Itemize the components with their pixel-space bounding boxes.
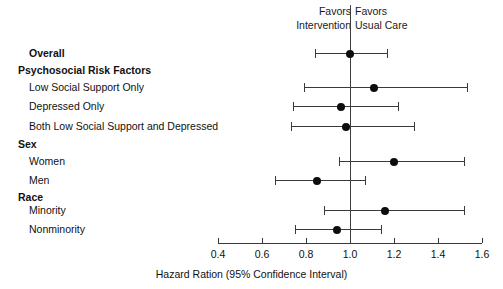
estimate-point-marker: [313, 177, 321, 185]
confidence-interval-line: [324, 210, 465, 211]
x-axis-tick: [262, 238, 263, 243]
ci-cap-upper: [464, 157, 465, 166]
ci-cap-upper: [387, 49, 388, 58]
forest-plot: Favors Intervention Favors Usual Care Ov…: [0, 0, 503, 289]
favors-usual-care-line2: Usual Care: [355, 18, 465, 32]
x-axis-tick-label: 1.0: [330, 248, 370, 260]
ci-cap-upper: [381, 225, 382, 234]
row-label-column: OverallPsychosocial Risk FactorsLow Soci…: [0, 0, 205, 289]
confidence-interval-line: [304, 87, 467, 88]
confidence-interval-line: [275, 180, 365, 181]
ci-cap-lower: [304, 83, 305, 92]
ci-cap-upper: [464, 206, 465, 215]
ci-cap-lower: [324, 206, 325, 215]
favors-usual-care-line1: Favors: [355, 4, 465, 18]
ci-cap-lower: [291, 122, 292, 131]
estimate-point-marker: [342, 123, 350, 131]
confidence-interval-line: [295, 229, 381, 230]
row-label: Men: [29, 174, 49, 186]
ci-cap-upper: [414, 122, 415, 131]
confidence-interval-line: [315, 53, 388, 54]
estimate-point-marker: [346, 50, 354, 58]
ci-cap-lower: [295, 225, 296, 234]
x-axis-tick: [306, 238, 307, 243]
x-axis-tick-label: 0.8: [286, 248, 326, 260]
estimate-point-marker: [381, 207, 389, 215]
x-axis-tick: [482, 238, 483, 243]
confidence-interval-line: [339, 161, 464, 162]
x-axis-tick-label: 0.6: [242, 248, 282, 260]
group-heading: Psychosocial Risk Factors: [18, 64, 151, 76]
ci-cap-upper: [365, 176, 366, 185]
row-label: Depressed Only: [29, 100, 104, 112]
x-axis-tick: [350, 238, 351, 243]
estimate-point-marker: [337, 103, 345, 111]
reference-line: [350, 8, 351, 244]
row-label: Minority: [29, 204, 66, 216]
favors-divider: [350, 5, 351, 35]
confidence-interval-line: [291, 126, 414, 127]
x-axis-tick: [394, 238, 395, 243]
ci-cap-lower: [293, 102, 294, 111]
ci-cap-upper: [398, 102, 399, 111]
ci-cap-upper: [467, 83, 468, 92]
x-axis-line: [218, 243, 482, 244]
ci-cap-lower: [275, 176, 276, 185]
row-label: Low Social Support Only: [29, 81, 144, 93]
ci-cap-lower: [339, 157, 340, 166]
x-axis-tick: [438, 238, 439, 243]
axis-title: Hazard Ration (95% Confidence Interval): [0, 268, 503, 280]
x-axis-tick-label: 1.2: [374, 248, 414, 260]
favors-header: Favors Intervention Favors Usual Care: [255, 4, 455, 36]
estimate-point-marker: [390, 158, 398, 166]
ci-cap-lower: [315, 49, 316, 58]
axis-title-text: Hazard Ration (95% Confidence Interval): [156, 268, 347, 280]
row-label: Women: [29, 155, 65, 167]
row-label: Both Low Social Support and Depressed: [29, 120, 218, 132]
estimate-point-marker: [370, 84, 378, 92]
confidence-interval-line: [293, 106, 399, 107]
x-axis-tick: [218, 238, 219, 243]
estimate-point-marker: [333, 226, 341, 234]
favors-usual-care-label: Favors Usual Care: [355, 4, 465, 32]
row-label: Overall: [29, 47, 65, 59]
x-axis-tick-label: 1.6: [462, 248, 502, 260]
favors-intervention-label: Favors Intervention: [255, 4, 351, 32]
favors-intervention-line2: Intervention: [255, 18, 351, 32]
group-heading: Race: [18, 191, 43, 203]
favors-intervention-line1: Favors: [255, 4, 351, 18]
row-label: Nonminority: [29, 223, 85, 235]
group-heading: Sex: [18, 138, 37, 150]
x-axis-tick-label: 1.4: [418, 248, 458, 260]
